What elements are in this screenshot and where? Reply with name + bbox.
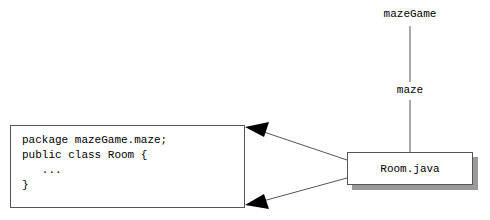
file-to-code-line-bottom [252, 178, 347, 204]
code-listing-box: package mazeGame.maze; public class Room… [10, 125, 245, 208]
arrowhead-top-icon [245, 122, 269, 137]
arrowhead-bottom-icon [245, 194, 269, 209]
package-root-label: mazeGame [381, 8, 440, 21]
file-to-code-line-top [252, 128, 347, 160]
diagram-canvas: mazeGame maze package mazeGame.maze; pub… [0, 0, 490, 220]
file-node-box[interactable]: Room.java [347, 152, 473, 185]
file-node-label: Room.java [380, 163, 439, 175]
package-child-label: maze [394, 84, 426, 97]
code-listing-text: package mazeGame.maze; public class Room… [11, 126, 244, 193]
